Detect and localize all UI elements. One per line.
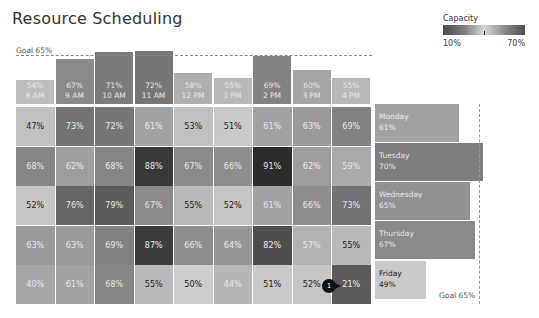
divider — [16, 104, 373, 106]
annotation-marker[interactable]: 1 — [322, 279, 336, 293]
heatmap-cell[interactable]: 64% — [214, 226, 253, 265]
day-label: Thursday — [379, 228, 475, 239]
heatmap-cell[interactable]: 44% — [214, 265, 253, 304]
day-bar[interactable]: Tuesday70% — [375, 143, 483, 181]
heatmap-cell[interactable]: 52% — [214, 186, 253, 225]
hour-label: 1 PM — [214, 91, 252, 101]
hour-pct: 60% — [293, 81, 331, 91]
hour-label: 4 PM — [332, 91, 370, 101]
capacity-legend: Capacity 10% 70% — [443, 14, 525, 35]
hour-bar[interactable]: 55%1 PM — [214, 78, 252, 104]
heatmap-cell[interactable]: 73% — [56, 107, 95, 146]
legend-max-label: 70% — [507, 39, 525, 48]
hour-bar[interactable]: 69%2 PM — [253, 56, 291, 104]
hour-bar-label: 58%12 PM — [174, 81, 212, 101]
heatmap-cell[interactable]: 67% — [174, 147, 213, 186]
heatmap-cell[interactable]: 57% — [293, 226, 332, 265]
heatmap-cell[interactable]: 63% — [56, 226, 95, 265]
heatmap-cell[interactable]: 69% — [95, 226, 134, 265]
day-label: Wednesday — [379, 189, 470, 200]
heatmap-cell[interactable]: 61% — [253, 186, 292, 225]
legend-midpoint-tick — [484, 31, 485, 35]
heatmap-cell[interactable]: 55% — [174, 186, 213, 225]
hour-bar-label: 55%1 PM — [214, 81, 252, 101]
day-bar[interactable]: Friday49% — [375, 261, 426, 299]
day-bar[interactable]: Thursday67% — [375, 221, 475, 259]
heatmap-cell[interactable]: 82% — [253, 226, 292, 265]
heatmap-cell[interactable]: 68% — [95, 265, 134, 304]
page-title: Resource Scheduling — [12, 9, 183, 28]
heatmap-cell[interactable]: 63% — [16, 226, 55, 265]
heatmap-cell[interactable]: 69% — [332, 107, 371, 146]
hour-bar-label: 71%10 AM — [95, 81, 133, 101]
heatmap-cell[interactable]: 68% — [16, 147, 55, 186]
heatmap-cell[interactable]: 47% — [16, 107, 55, 146]
day-label: Friday — [379, 268, 426, 279]
hour-bar-label: 67%9 AM — [56, 81, 94, 101]
day-label: Monday — [379, 111, 459, 122]
day-label: Tuesday — [379, 150, 483, 161]
goal-label-top: Goal 65% — [16, 46, 52, 55]
hour-bar[interactable]: 71%10 AM — [95, 52, 133, 104]
heatmap-cell[interactable]: 52% — [16, 186, 55, 225]
goal-label-right: Goal 65% — [438, 291, 476, 300]
hour-bar-label: 60%3 PM — [293, 81, 331, 101]
hour-pct: 69% — [253, 81, 291, 91]
legend-title: Capacity — [443, 14, 525, 23]
day-pct: 70% — [379, 161, 483, 172]
hour-bar[interactable]: 54%8 AM — [16, 80, 54, 104]
heatmap-cell[interactable]: 76% — [56, 186, 95, 225]
heatmap-cell[interactable]: 72% — [95, 107, 134, 146]
heatmap-cell[interactable]: 68% — [95, 147, 134, 186]
hour-bar[interactable]: 72%11 AM — [135, 51, 173, 104]
heatmap-cell[interactable]: 67% — [135, 186, 174, 225]
hour-label: 3 PM — [293, 91, 331, 101]
legend-gradient — [443, 25, 525, 35]
heatmap-cell[interactable]: 61% — [135, 107, 174, 146]
heatmap-cell[interactable]: 79% — [95, 186, 134, 225]
heatmap-cell[interactable]: 73% — [332, 186, 371, 225]
hour-label: 9 AM — [56, 91, 94, 101]
heatmap-cell[interactable]: 51% — [253, 265, 292, 304]
heatmap-cell[interactable]: 61% — [253, 107, 292, 146]
day-pct: 61% — [379, 122, 459, 133]
day-bar[interactable]: Monday61% — [375, 104, 459, 142]
heatmap-cell[interactable]: 55% — [332, 226, 371, 265]
hour-pct: 55% — [214, 81, 252, 91]
heatmap-cell[interactable]: 53% — [174, 107, 213, 146]
heatmap-cell[interactable]: 62% — [293, 147, 332, 186]
hour-label: 11 AM — [135, 91, 173, 101]
legend-min-label: 10% — [443, 39, 461, 48]
heatmap-cell[interactable]: 66% — [293, 186, 332, 225]
heatmap-cell[interactable]: 88% — [135, 147, 174, 186]
heatmap-cell[interactable]: 63% — [293, 107, 332, 146]
hour-bar[interactable]: 67%9 AM — [56, 59, 94, 104]
hour-bar[interactable]: 58%12 PM — [174, 73, 212, 104]
hour-bar-label: 72%11 AM — [135, 81, 173, 101]
heatmap-cell[interactable]: 59% — [332, 147, 371, 186]
heatmap-cell[interactable]: 91% — [253, 147, 292, 186]
hour-label: 10 AM — [95, 91, 133, 101]
heatmap-cell[interactable]: 51% — [214, 107, 253, 146]
goal-reference-line-horizontal — [16, 55, 372, 56]
hour-bar[interactable]: 60%3 PM — [293, 70, 331, 104]
heatmap-cell[interactable]: 66% — [174, 226, 213, 265]
hour-bar-label: 69%2 PM — [253, 81, 291, 101]
heatmap-cell[interactable]: 62% — [56, 147, 95, 186]
day-pct: 49% — [379, 279, 426, 290]
heatmap-cell[interactable]: 40% — [16, 265, 55, 304]
heatmap-cell[interactable]: 61% — [56, 265, 95, 304]
heatmap-cell[interactable]: 50% — [174, 265, 213, 304]
hour-bar[interactable]: 55%4 PM — [332, 78, 370, 104]
hour-bar-label: 54%8 AM — [16, 81, 54, 101]
hour-pct: 72% — [135, 81, 173, 91]
heatmap-cell[interactable]: 55% — [135, 265, 174, 304]
hour-label: 12 PM — [174, 91, 212, 101]
day-pct: 65% — [379, 200, 470, 211]
goal-reference-line-vertical — [479, 104, 480, 304]
heatmap-cell[interactable]: 66% — [214, 147, 253, 186]
heatmap-cell[interactable]: 87% — [135, 226, 174, 265]
day-bar[interactable]: Wednesday65% — [375, 182, 470, 220]
hour-bar-label: 55%4 PM — [332, 81, 370, 101]
day-pct: 67% — [379, 239, 475, 250]
